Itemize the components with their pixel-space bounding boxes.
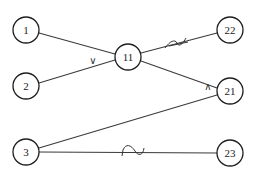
node-22: 22 [217, 17, 243, 43]
svg-text:1: 1 [23, 24, 29, 36]
node-3: 3 [13, 139, 39, 165]
or-mark: ∨ [89, 55, 96, 66]
node-21: 21 [217, 78, 243, 104]
sine-wave-mark-icon [165, 38, 188, 48]
edge-2-11 [39, 60, 115, 83]
svg-text:23: 23 [225, 147, 237, 159]
svg-text:22: 22 [225, 24, 236, 36]
svg-text:2: 2 [23, 80, 29, 92]
and-mark: ∧ [204, 81, 211, 92]
svg-text:21: 21 [225, 85, 236, 97]
node-11: 11 [115, 44, 141, 70]
tilde-mark-icon [122, 146, 144, 156]
logic-diagram: ∨ ∧ 1 2 3 11 22 21 23 [0, 0, 255, 177]
edge-3-21 [39, 95, 217, 148]
edge-1-11 [39, 33, 115, 54]
node-2: 2 [13, 73, 39, 99]
svg-text:11: 11 [123, 51, 134, 63]
svg-text:3: 3 [23, 146, 29, 158]
node-1: 1 [13, 17, 39, 43]
edge-11-22 [141, 33, 217, 53]
edge-3-23 [39, 152, 217, 153]
node-23: 23 [217, 140, 243, 166]
